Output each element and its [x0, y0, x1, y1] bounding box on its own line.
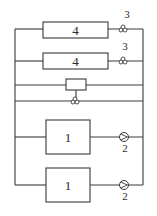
bypass-box	[66, 79, 86, 90]
valve-label: 3	[124, 8, 130, 20]
valve-icon	[119, 25, 127, 32]
pump-label: 2	[122, 190, 128, 202]
component-label: 4	[72, 54, 79, 69]
pump-icon	[120, 181, 129, 190]
branch-cooler-b: 4 3	[15, 40, 143, 69]
valve-icon	[71, 97, 79, 104]
branch-unit-a: 1 2	[15, 120, 143, 154]
component-label: 1	[65, 130, 72, 145]
component-label: 4	[72, 23, 79, 38]
flow-diagram: 4 3 4 3	[0, 0, 157, 216]
branch-cooler-a: 4 3	[15, 8, 143, 38]
pump-label: 2	[122, 142, 128, 154]
valve-label: 3	[122, 40, 128, 52]
component-label: 1	[65, 178, 72, 193]
pump-icon	[120, 133, 129, 142]
branch-bypass-valve	[15, 97, 143, 104]
branch-bypass-box	[15, 79, 143, 99]
valve-icon	[119, 57, 127, 64]
branch-unit-b: 1 2	[15, 168, 143, 202]
